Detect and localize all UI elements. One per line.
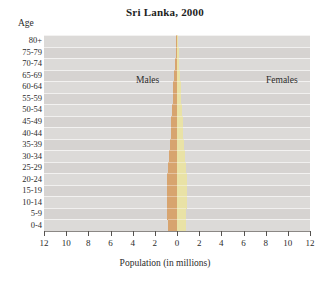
x-axis-tick-label: 8 <box>255 238 277 248</box>
x-axis-tick-mark <box>155 231 156 236</box>
y-axis-tick-label: 15-19 <box>0 186 42 195</box>
x-axis-tick-label: 6 <box>100 238 122 248</box>
x-axis-tick-mark <box>288 231 289 236</box>
x-axis-tick-label: 2 <box>188 238 210 248</box>
x-axis-tick-mark <box>310 231 311 236</box>
x-axis-tick-label: 10 <box>55 238 77 248</box>
y-axis-tick-label: 65-69 <box>0 71 42 80</box>
pyramid-row <box>44 104 310 116</box>
y-axis-tick-label: 0-4 <box>0 221 42 230</box>
x-axis-tick-mark <box>244 231 245 236</box>
x-axis-tick-label: 12 <box>33 238 55 248</box>
x-axis-tick-mark <box>266 231 267 236</box>
x-axis-title: Population (in millions) <box>0 258 330 268</box>
x-axis-tick-label: 0 <box>166 238 188 248</box>
pyramid-row <box>44 185 310 197</box>
y-axis-tick-label: 20-24 <box>0 175 42 184</box>
y-axis-tick-labels: 80+75-7970-7465-6960-6455-5950-5445-4940… <box>0 35 42 231</box>
y-axis-tick-label: 35-39 <box>0 140 42 149</box>
pyramid-row <box>44 173 310 185</box>
pyramid-row <box>44 127 310 139</box>
x-axis-tick-mark <box>44 231 45 236</box>
x-axis-tick-mark <box>177 231 178 236</box>
plot-area: Males Females <box>44 35 310 231</box>
x-axis-tick-label: 12 <box>299 238 321 248</box>
pyramid-row <box>44 116 310 128</box>
y-axis-tick-label: 60-64 <box>0 82 42 91</box>
y-axis-tick-label: 55-59 <box>0 94 42 103</box>
pyramid-row <box>44 47 310 59</box>
y-axis-tick-label: 5-9 <box>0 209 42 218</box>
population-pyramid-chart: Sri Lanka, 2000 Age 80+75-7970-7465-6960… <box>0 0 330 281</box>
x-axis-tick-mark <box>221 231 222 236</box>
bar-male <box>168 219 177 231</box>
x-axis-tick-mark <box>88 231 89 236</box>
pyramid-row <box>44 58 310 70</box>
pyramid-row <box>44 35 310 47</box>
x-axis-tick-label: 2 <box>144 238 166 248</box>
x-axis-tick-label: 6 <box>233 238 255 248</box>
y-axis-tick-label: 70-74 <box>0 59 42 68</box>
bar-female <box>177 219 186 231</box>
y-axis-tick-label: 10-14 <box>0 198 42 207</box>
x-axis-tick-mark <box>66 231 67 236</box>
x-axis-tick-mark <box>199 231 200 236</box>
pyramid-row <box>44 208 310 220</box>
x-axis-tick-label: 8 <box>77 238 99 248</box>
y-axis-tick-label: 45-49 <box>0 117 42 126</box>
series-label-males: Males <box>136 75 159 85</box>
series-label-females: Females <box>266 75 298 85</box>
x-axis-tick-mark <box>133 231 134 236</box>
x-axis-tick-mark <box>111 231 112 236</box>
pyramid-row <box>44 196 310 208</box>
x-axis-tick-label: 4 <box>210 238 232 248</box>
y-axis-tick-label: 80+ <box>0 36 42 45</box>
y-axis-tick-label: 30-34 <box>0 152 42 161</box>
y-axis-tick-label: 40-44 <box>0 129 42 138</box>
pyramid-row <box>44 162 310 174</box>
pyramid-row <box>44 219 310 231</box>
y-axis-tick-label: 25-29 <box>0 163 42 172</box>
y-axis-tick-label: 75-79 <box>0 48 42 57</box>
x-axis-tick-label: 4 <box>122 238 144 248</box>
chart-title: Sri Lanka, 2000 <box>0 6 330 18</box>
pyramid-row <box>44 150 310 162</box>
y-axis-title: Age <box>18 18 34 28</box>
y-axis-tick-label: 50-54 <box>0 105 42 114</box>
pyramid-row <box>44 139 310 151</box>
pyramid-row <box>44 93 310 105</box>
x-axis-tick-label: 10 <box>277 238 299 248</box>
